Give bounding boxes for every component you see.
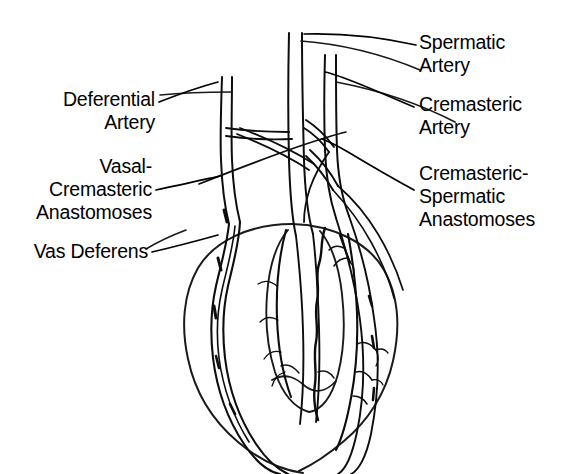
label-deferential-artery: Deferential Artery [10,88,155,134]
label-spermatic-artery: Spermatic Artery [419,31,561,77]
leader-lines [152,34,416,252]
cremasteric-artery [324,55,377,474]
label-vasal-cremasteric-anastomoses: Vasal- Cremasteric Anastomoses [4,155,152,224]
label-cremasteric-spermatic-anastomoses: Cremasteric- Spermatic Anastomoses [419,162,563,231]
testicular-surface-vessels [258,228,388,450]
testis-outline [184,224,397,473]
label-vas-deferens: Vas Deferens [4,240,148,263]
leader-vasal-cremasteric-anastomoses [156,176,220,190]
anatomy-figure: Deferential Artery Vasal- Cremasteric An… [0,0,563,474]
label-cremasteric-artery: Cremasteric Artery [419,93,561,139]
deferential-artery-and-vas-deferens [211,77,288,474]
leader-vas-deferens [152,235,218,252]
